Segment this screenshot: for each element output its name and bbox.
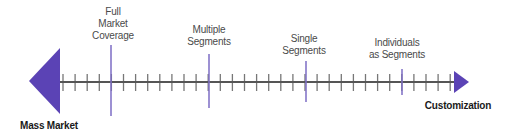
right-arrow-icon (454, 71, 469, 93)
left-arrow-icon (29, 48, 60, 114)
label-full-market-coverage: Full Market Coverage (92, 6, 134, 42)
label-line: Multiple (187, 24, 230, 36)
label-mass-market: Mass Market (20, 120, 78, 132)
label-line: as Segments (369, 49, 425, 61)
label-line: Single (282, 33, 325, 45)
label-single-segments: Single Segments (282, 33, 325, 57)
label-line: Coverage (92, 30, 134, 42)
label-multiple-segments: Multiple Segments (187, 24, 230, 48)
label-line: Segments (187, 36, 230, 48)
label-individuals-as-segments: Individuals as Segments (369, 37, 425, 61)
label-line: Market (92, 18, 134, 30)
label-line: Segments (282, 45, 325, 57)
label-line: Full (92, 6, 134, 18)
continuum-graphic (0, 0, 517, 133)
label-customization: Customization (425, 100, 491, 112)
label-line: Individuals (369, 37, 425, 49)
